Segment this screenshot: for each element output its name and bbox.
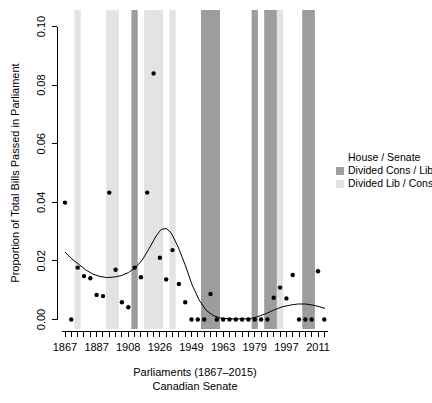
x-tick-label-1997: 1997: [274, 341, 298, 353]
point-1925: [151, 71, 155, 75]
x-axis-title: Parliaments (1867–2015): [133, 366, 257, 378]
point-1908: [126, 305, 130, 309]
point-1911: [132, 265, 136, 269]
y-tick-label: 0.08: [35, 74, 47, 95]
point-1945: [183, 300, 187, 304]
point-1904: [120, 300, 124, 304]
point-1965: [227, 317, 231, 321]
divided-senate-bands: [75, 10, 315, 329]
legend-label-divided-lib-cons: Divided Lib / Cons: [348, 177, 432, 190]
point-1935: [170, 248, 174, 252]
x-tick-label-1867: 1867: [53, 341, 77, 353]
chart-figure: 0.000.020.040.060.080.101867188719081926…: [0, 0, 432, 403]
y-tick-label: 0.02: [35, 250, 47, 271]
x-axis-subtitle: Canadian Senate: [152, 380, 237, 392]
point-1949: [189, 317, 193, 321]
point-1921: [145, 190, 149, 194]
point-1980: [259, 317, 263, 321]
point-1974: [246, 317, 250, 321]
point-1993: [278, 285, 282, 289]
x-tick-label-1979: 1979: [243, 341, 267, 353]
band-divided_cons_lib-1979: [252, 10, 258, 329]
point-1930: [164, 277, 168, 281]
data-points: [63, 71, 327, 321]
band-divided_cons_lib-2006-2008: [302, 10, 315, 329]
point-2000: [291, 273, 295, 277]
x-tick-label-1908: 1908: [116, 341, 140, 353]
divided-cons-lib-swatch-icon: [336, 167, 344, 175]
point-1940: [177, 282, 181, 286]
y-tick-label: 0.00: [35, 309, 47, 330]
y-tick-label: 0.06: [35, 133, 47, 154]
point-1979: [253, 317, 257, 321]
divided-lib-cons-swatch-icon: [336, 180, 344, 188]
point-1972: [240, 317, 244, 321]
point-1887: [94, 293, 98, 297]
point-1968: [234, 317, 238, 321]
point-1988: [272, 296, 276, 300]
point-1926: [158, 256, 162, 260]
band-divided_cons_lib-1957-1962: [201, 10, 220, 329]
point-1958: [208, 292, 212, 296]
point-1900: [113, 268, 117, 272]
band-divided_lib_cons-1874: [75, 10, 81, 329]
point-1878: [82, 274, 86, 278]
y-tick-label: 0.04: [35, 192, 47, 213]
x-tick-label-1963: 1963: [211, 341, 235, 353]
point-1997: [284, 296, 288, 300]
point-1867: [63, 200, 67, 204]
x-tick-label-1949: 1949: [179, 341, 203, 353]
y-tick-label: 0.10: [35, 16, 47, 37]
point-2008: [310, 317, 314, 321]
point-1963: [221, 317, 225, 321]
legend-entry-divided-lib-cons: Divided Lib / Cons: [336, 177, 432, 190]
point-2004: [297, 317, 301, 321]
y-axis-title: Proportion of Total Bills Passed in Parl…: [9, 63, 21, 282]
band-divided_lib_cons-1921-1926: [144, 10, 163, 329]
legend-label-divided-cons-lib: Divided Cons / Lib: [348, 164, 432, 177]
point-1962: [215, 317, 219, 321]
point-1957: [202, 317, 206, 321]
x-tick-label-2011: 2011: [306, 341, 330, 353]
band-divided_cons_lib-1911: [131, 10, 137, 329]
point-1984: [265, 317, 269, 321]
legend: House / Senate Divided Cons / Lib Divide…: [336, 151, 432, 190]
point-1896: [107, 190, 111, 194]
band-divided_lib_cons-1896-1900: [106, 10, 119, 329]
point-1882: [88, 276, 92, 280]
band-divided_lib_cons-1993: [277, 10, 283, 329]
point-2015: [322, 317, 326, 321]
band-divided_lib_cons-1935: [169, 10, 175, 329]
point-2011: [316, 269, 320, 273]
x-tick-label-1926: 1926: [148, 341, 172, 353]
x-tick-label-1887: 1887: [84, 341, 108, 353]
y-axis: 0.000.020.040.060.080.10: [35, 16, 57, 330]
legend-entry-divided-cons-lib: Divided Cons / Lib: [336, 164, 432, 177]
x-axis: 186718871908192619491963197919972011: [53, 331, 330, 353]
band-divided_cons_lib-1984-1988: [264, 10, 277, 329]
point-2006: [303, 317, 307, 321]
point-1917: [139, 275, 143, 279]
point-1891: [101, 294, 105, 298]
legend-title: House / Senate: [336, 151, 432, 164]
point-1874: [76, 265, 80, 269]
chart-canvas: 0.000.020.040.060.080.101867188719081926…: [0, 0, 432, 403]
point-1872: [69, 317, 73, 321]
point-1953: [196, 317, 200, 321]
trend-line: [65, 228, 325, 319]
